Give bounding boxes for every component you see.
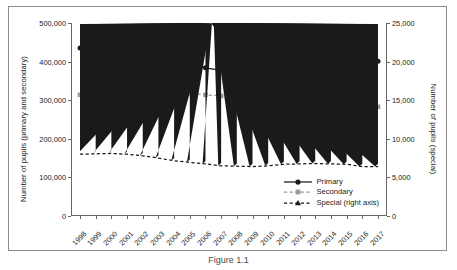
x-axis-tick-label: 2000: [101, 229, 119, 247]
tick-mark: [387, 216, 390, 217]
tick-mark: [205, 216, 206, 219]
y-axis-left-tick-label: 300,000: [39, 96, 66, 105]
tick-mark: [221, 216, 222, 219]
tick-mark: [387, 177, 390, 178]
x-axis-tick-label: 2016: [352, 229, 370, 247]
legend: Primary Secondary Special (right axis): [283, 177, 379, 208]
tick-mark: [387, 62, 390, 63]
y-axis-right-line: [386, 23, 387, 216]
y-axis-right-tick-label: 20,000: [392, 57, 415, 66]
tick-mark: [96, 216, 97, 219]
figure-frame: Number of pupils (primary and secondary)…: [8, 6, 447, 251]
legend-swatch-square-icon: [283, 187, 313, 197]
y-axis-right-tick-label: 25,000: [392, 19, 415, 28]
y-axis-right-title: Number of pupils (special): [429, 59, 438, 199]
x-axis-tick-label: 2012: [290, 229, 308, 247]
tick-mark: [253, 216, 254, 219]
tick-mark: [127, 216, 128, 219]
tick-mark: [284, 216, 285, 219]
y-axis-left-tick-label: 400,000: [39, 57, 66, 66]
tick-mark: [68, 139, 71, 140]
tick-mark: [387, 100, 390, 101]
y-axis-left-tick-label: 0: [62, 212, 66, 221]
x-axis-tick-label: 1998: [70, 229, 88, 247]
x-axis-tick-label: 2013: [305, 229, 323, 247]
tick-mark: [387, 139, 390, 140]
x-axis-tick-label: 2017: [368, 229, 386, 247]
y-axis-right-tick-label: 5,000: [392, 173, 411, 182]
tick-mark: [268, 216, 269, 219]
x-axis-tick-label: 2006: [195, 229, 213, 247]
tick-mark: [68, 177, 71, 178]
tick-mark: [68, 100, 71, 101]
tick-mark: [111, 216, 112, 219]
x-axis-tick-label: 2008: [227, 229, 245, 247]
y-axis-right-tick-label: 0: [392, 212, 396, 221]
tick-mark: [378, 216, 379, 219]
x-axis-tick-label: 1999: [86, 229, 104, 247]
tick-mark: [68, 216, 71, 217]
legend-label: Secondary: [317, 187, 353, 197]
y-axis-left-line: [71, 23, 72, 216]
x-axis-tick-label: 2005: [180, 229, 198, 247]
tick-mark: [68, 23, 71, 24]
legend-item[interactable]: Special (right axis): [283, 198, 379, 208]
y-axis-left-tick-label: 100,000: [39, 173, 66, 182]
legend-swatch-triangle-icon: [283, 198, 313, 208]
figure-caption: Figure 1.1: [0, 255, 457, 270]
legend-item[interactable]: Secondary: [283, 187, 379, 197]
y-axis-left-tick-label: 500,000: [39, 19, 66, 28]
y-axis-right-tick-label: 10,000: [392, 134, 415, 143]
tick-mark: [143, 216, 144, 219]
x-axis-tick-label: 2007: [211, 229, 229, 247]
x-axis-tick-label: 2003: [148, 229, 166, 247]
tick-mark: [362, 216, 363, 219]
x-axis-tick-label: 2009: [242, 229, 260, 247]
x-axis-tick-label: 2002: [133, 229, 151, 247]
x-axis-line: [71, 215, 387, 216]
legend-swatch-circle-icon: [283, 177, 313, 187]
tick-mark: [158, 216, 159, 219]
x-axis-tick-label: 2014: [321, 229, 339, 247]
tick-mark: [315, 216, 316, 219]
tick-mark: [300, 216, 301, 219]
tick-mark: [68, 62, 71, 63]
tick-mark: [387, 23, 390, 24]
legend-label: Special (right axis): [317, 198, 379, 208]
tick-mark: [174, 216, 175, 219]
x-axis-tick-label: 2015: [337, 229, 355, 247]
x-axis-tick-label: 2011: [274, 229, 292, 247]
x-axis-tick-label: 2010: [258, 229, 276, 247]
tick-mark: [190, 216, 191, 219]
y-axis-right-tick-label: 15,000: [392, 96, 415, 105]
legend-label: Primary: [317, 177, 343, 187]
x-axis-tick-label: 2004: [164, 229, 182, 247]
tick-mark: [80, 216, 81, 219]
tick-mark: [237, 216, 238, 219]
tick-mark: [347, 216, 348, 219]
y-axis-left-title: Number of pupils (primary and secondary): [19, 54, 28, 204]
plot-area: 0100,000200,000300,000400,000500,000 05,…: [71, 23, 387, 216]
y-axis-left-tick-label: 200,000: [39, 134, 66, 143]
tick-mark: [331, 216, 332, 219]
legend-item[interactable]: Primary: [283, 177, 379, 187]
x-axis-tick-label: 2001: [117, 229, 135, 247]
